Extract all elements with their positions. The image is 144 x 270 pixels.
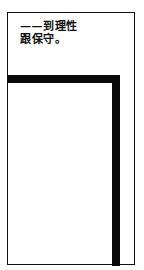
text-line-1: ——到理性 xyxy=(20,20,78,33)
text-block: ——到理性 跟保守。 xyxy=(20,20,78,46)
thick-horizontal-bar xyxy=(8,75,120,83)
text-line-2: 跟保守。 xyxy=(20,33,78,46)
thick-vertical-bar xyxy=(112,75,120,266)
